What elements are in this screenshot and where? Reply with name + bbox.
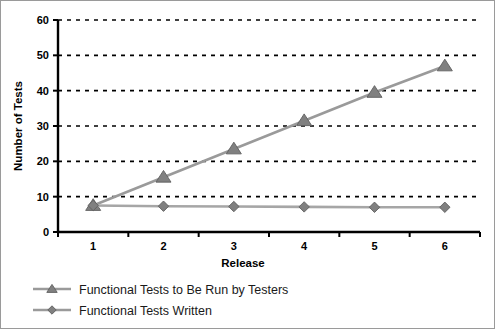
gridlines [58, 20, 480, 197]
series-1 [88, 200, 450, 212]
legend-diamond-marker [48, 306, 56, 314]
x-axis-tick-label: 3 [231, 240, 237, 252]
y-axis-tick-label: 30 [37, 120, 49, 132]
diamond-marker [299, 202, 309, 212]
diamond-marker [229, 201, 239, 211]
diamond-marker [158, 201, 168, 211]
chart-legend: Functional Tests to Be Run by TestersFun… [33, 283, 288, 318]
triangle-marker [437, 59, 452, 71]
x-axis-tick-label: 2 [160, 240, 166, 252]
series-layer [86, 59, 453, 212]
x-axis-tick-label: 1 [90, 240, 96, 252]
legend-label: Functional Tests Written [79, 304, 212, 318]
x-axis-tick-label: 6 [442, 240, 448, 252]
diamond-marker [369, 202, 379, 212]
x-axis-tick-labels: 123456 [90, 240, 448, 252]
legend-item-1[interactable]: Functional Tests Written [33, 304, 212, 318]
diamond-marker [440, 202, 450, 212]
y-axis-tick-label: 20 [37, 155, 49, 167]
y-axis-tick-label: 40 [37, 85, 49, 97]
series-line [93, 206, 445, 208]
y-axis-tick-label: 0 [43, 226, 49, 238]
line-chart: 0102030405060 123456 Number of Tests Rel… [0, 0, 496, 330]
series-line [93, 66, 445, 206]
y-axis-tick-label: 10 [37, 191, 49, 203]
x-axis-tick-label: 5 [371, 240, 377, 252]
x-axis-tick-label: 4 [301, 240, 308, 252]
x-axis-title: Release [221, 257, 264, 269]
series-0 [86, 59, 453, 210]
chart-container: 0102030405060 123456 Number of Tests Rel… [0, 0, 496, 330]
y-axis-tick-labels: 0102030405060 [37, 14, 49, 238]
y-axis-title: Number of Tests [12, 81, 24, 171]
legend-label: Functional Tests to Be Run by Testers [79, 283, 288, 297]
legend-item-0[interactable]: Functional Tests to Be Run by Testers [33, 283, 288, 297]
y-axis-tick-label: 60 [37, 14, 49, 26]
y-axis-tick-label: 50 [37, 49, 49, 61]
